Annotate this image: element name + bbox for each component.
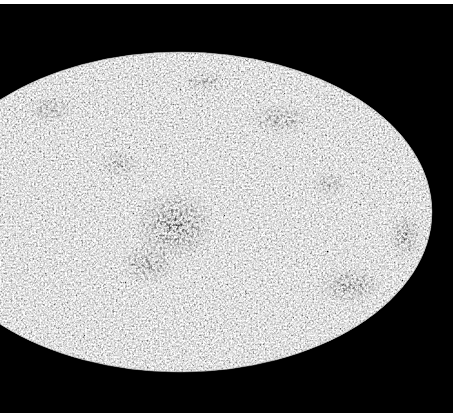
upper-center-region — [183, 72, 227, 92]
upper-right-region — [250, 103, 310, 135]
sky-map-figure — [0, 4, 453, 413]
mid-right-region — [312, 170, 348, 198]
upper-left-region — [26, 95, 74, 123]
sky-map-canvas — [0, 4, 453, 413]
sky-map-ellipse — [0, 44, 440, 384]
lower-center-region — [120, 244, 176, 284]
mid-left-region — [100, 150, 140, 178]
lower-right-region — [318, 268, 382, 304]
right-edge-region — [389, 214, 421, 258]
